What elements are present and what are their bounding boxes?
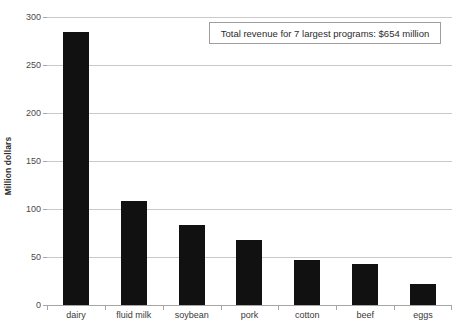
bar-slot: [336, 17, 394, 305]
bar[interactable]: [294, 260, 320, 305]
x-axis-tick-labels: dairyfluid milksoybeanporkcottonbeefeggs: [47, 310, 452, 326]
y-axis-tick-label: 250: [26, 60, 41, 70]
x-axis-tick-label: cotton: [295, 310, 320, 320]
x-axis-tick-label: soybean: [175, 310, 209, 320]
y-axis-tick-label: 0: [36, 300, 41, 310]
bar-slot: [394, 17, 452, 305]
bar-chart: Million dollars 050100150200250300 dairy…: [0, 0, 460, 332]
bar[interactable]: [410, 284, 436, 305]
y-axis-tick-label: 50: [31, 252, 41, 262]
bar-slot: [105, 17, 163, 305]
bar[interactable]: [352, 264, 378, 305]
y-axis-tick-label: 300: [26, 12, 41, 22]
x-axis-tick-label: fluid milk: [116, 310, 151, 320]
bar[interactable]: [179, 225, 205, 305]
x-axis-tick-label: beef: [356, 310, 374, 320]
bar[interactable]: [121, 201, 147, 305]
x-axis-tick-label: pork: [241, 310, 259, 320]
bar[interactable]: [236, 240, 262, 305]
bar-slot: [163, 17, 221, 305]
bar-slot: [221, 17, 279, 305]
bar-slot: [47, 17, 105, 305]
total-revenue-annotation: Total revenue for 7 largest programs: $6…: [209, 22, 441, 44]
total-revenue-annotation-label: Total revenue for 7 largest programs: $6…: [221, 28, 430, 39]
plot-area: [47, 17, 452, 305]
bar-slot: [278, 17, 336, 305]
y-axis-tick-label: 150: [26, 156, 41, 166]
y-axis-tick-label: 200: [26, 108, 41, 118]
y-axis-tick-label: 100: [26, 204, 41, 214]
x-axis-tick-label: eggs: [413, 310, 433, 320]
y-axis-tick-labels: 050100150200250300: [0, 0, 43, 332]
x-axis-tick-label: dairy: [66, 310, 86, 320]
bar[interactable]: [63, 32, 89, 305]
